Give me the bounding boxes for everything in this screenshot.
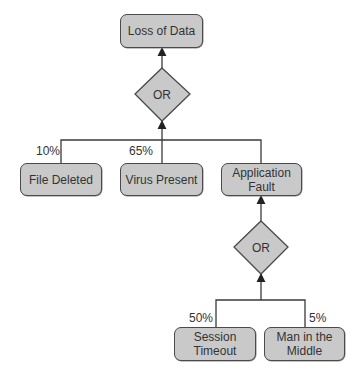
node-label: Session Timeout <box>189 330 241 358</box>
event-man-in-the-middle: Man in the Middle <box>264 327 345 361</box>
or-gate-1-label: OR <box>153 88 171 102</box>
event-session-timeout: Session Timeout <box>174 327 256 361</box>
top-event-loss-of-data: Loss of Data <box>120 14 203 48</box>
probability-man-in-the-middle: 5% <box>309 312 326 324</box>
node-label: Application Fault <box>232 166 291 194</box>
node-label: Man in the Middle <box>273 330 336 358</box>
connector-bus-bottom <box>216 300 305 327</box>
probability-virus-present: 65% <box>129 145 153 157</box>
node-label: File Deleted <box>29 173 93 187</box>
probability-session-timeout: 50% <box>189 312 213 324</box>
or-gate-2-label: OR <box>252 241 270 255</box>
connector-bus-top <box>61 140 261 163</box>
event-virus-present: Virus Present <box>120 163 203 196</box>
probability-file-deleted: 10% <box>36 145 60 157</box>
node-label: Loss of Data <box>128 24 195 38</box>
node-label: Virus Present <box>126 173 198 187</box>
event-application-fault: Application Fault <box>221 163 302 196</box>
event-file-deleted: File Deleted <box>20 163 102 196</box>
